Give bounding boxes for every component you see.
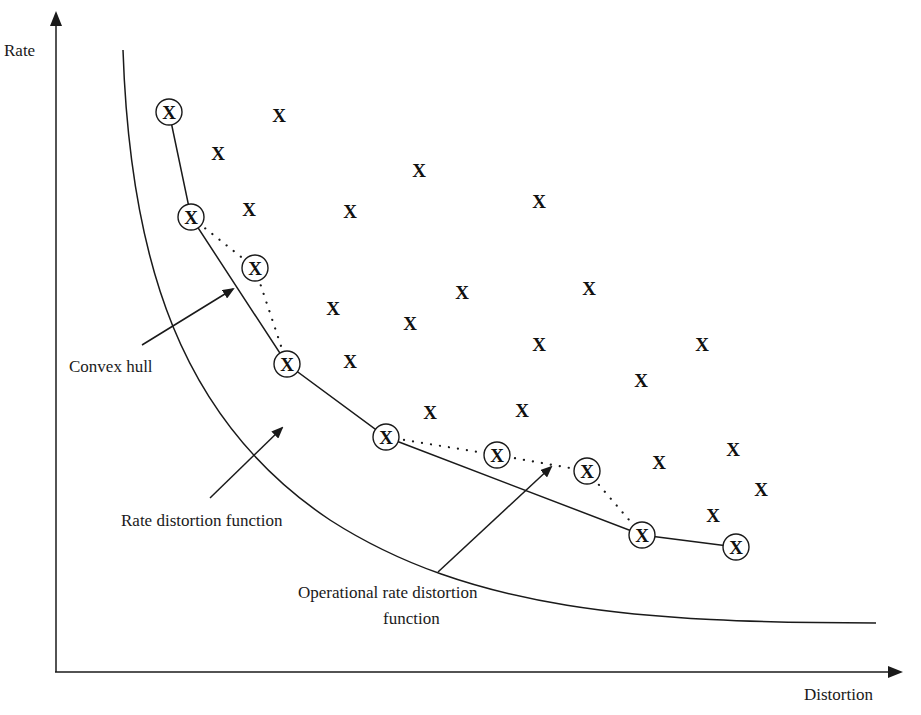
x-marker-icon: X [706, 505, 720, 526]
circled-point: X [723, 534, 749, 560]
convex-hull-line [169, 112, 736, 547]
x-marker-icon: X [652, 452, 666, 473]
dotted-segment [386, 437, 497, 455]
x-marker-icon: X [532, 334, 546, 355]
rate-distortion-diagram: Rate Distortion XXXXXXXXX XXXXXXXXXXXXXX… [0, 0, 921, 715]
x-axis-label: Distortion [804, 685, 873, 704]
rate-distortion-curve [123, 50, 876, 623]
x-marker-icon: X [211, 143, 225, 164]
circled-point: X [242, 255, 268, 281]
operational-arrow [438, 467, 551, 572]
x-marker-icon: X [726, 439, 740, 460]
circled-point: X [373, 424, 399, 450]
x-marker-icon: X [326, 298, 340, 319]
x-marker-icon: X [490, 445, 504, 466]
x-marker-icon: X [379, 427, 393, 448]
x-axis-arrow-icon [888, 666, 903, 678]
x-marker-icon: X [695, 334, 709, 355]
x-marker-icon: X [455, 282, 469, 303]
circled-point: X [629, 522, 655, 548]
operational-points: XXXXXXXXX [156, 99, 749, 560]
x-marker-icon: X [343, 201, 357, 222]
x-marker-icon: X [729, 537, 743, 558]
x-marker-icon: X [343, 351, 357, 372]
x-marker-icon: X [634, 370, 648, 391]
x-marker-icon: X [582, 278, 596, 299]
x-marker-icon: X [412, 160, 426, 181]
y-axis-arrow-icon [50, 11, 62, 26]
circled-point: X [178, 204, 204, 230]
operational-label-line2: function [383, 609, 440, 628]
x-marker-icon: X [580, 461, 594, 482]
rate-distortion-label: Rate distortion function [121, 511, 283, 530]
x-marker-icon: X [423, 402, 437, 423]
circled-point: X [274, 351, 300, 377]
circled-point: X [574, 458, 600, 484]
x-marker-icon: X [635, 525, 649, 546]
dotted-segment [497, 455, 587, 471]
x-marker-icon: X [242, 199, 256, 220]
x-marker-icon: X [532, 191, 546, 212]
x-marker-icon: X [162, 102, 176, 123]
x-axis [55, 666, 903, 678]
x-marker-icon: X [272, 105, 286, 126]
x-marker-icon: X [403, 313, 417, 334]
x-marker-icon: X [184, 207, 198, 228]
x-marker-icon: X [248, 258, 262, 279]
y-axis [50, 11, 62, 672]
rate-distortion-arrow [210, 428, 282, 498]
convex-hull-label: Convex hull [69, 357, 153, 376]
y-axis-label: Rate [4, 41, 35, 60]
dotted-segment [255, 268, 287, 364]
operational-label-line1: Operational rate distortion [298, 583, 478, 602]
x-marker-icon: X [515, 400, 529, 421]
circled-point: X [484, 442, 510, 468]
x-marker-icon: X [280, 354, 294, 375]
circled-point: X [156, 99, 182, 125]
x-marker-icon: X [754, 479, 768, 500]
convex-hull-arrow [142, 289, 233, 345]
